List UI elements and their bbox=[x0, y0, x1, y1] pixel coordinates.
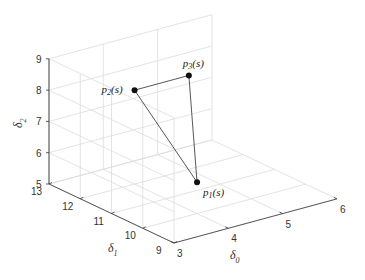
point-label-p1: p1(s) bbox=[202, 186, 224, 200]
z-tick-label: 5 bbox=[36, 179, 42, 190]
z-tick-label: 9 bbox=[36, 54, 42, 65]
y-tick-label: 9 bbox=[156, 245, 162, 256]
x-tick-label: 6 bbox=[340, 204, 346, 215]
z-axis-label: δ2 bbox=[11, 118, 28, 128]
point-label-p2: p2(s) bbox=[101, 83, 123, 97]
point-p2 bbox=[132, 87, 138, 93]
right-wall-grid-z-6 bbox=[49, 109, 212, 153]
edge-p1-p2 bbox=[135, 90, 198, 182]
x-tick-label: 4 bbox=[231, 233, 237, 244]
point-label-p3: p3(s) bbox=[182, 57, 204, 71]
x-axis-line bbox=[174, 199, 337, 243]
edge-p2-p3 bbox=[135, 75, 189, 90]
x-tick-5 bbox=[280, 212, 283, 214]
z-tick-label: 6 bbox=[36, 148, 42, 159]
x-tick-label: 5 bbox=[286, 219, 292, 230]
point-p1 bbox=[194, 179, 200, 185]
right-wall-grid-z-5 bbox=[49, 140, 212, 184]
z-tick-label: 7 bbox=[36, 116, 42, 127]
x-tick-6 bbox=[334, 197, 337, 199]
x-tick-label: 3 bbox=[177, 248, 183, 259]
axis-layer: 345691011121356789 bbox=[31, 54, 346, 259]
edge-p3-p1 bbox=[189, 75, 197, 182]
y-axis-label: δ1 bbox=[108, 241, 118, 258]
right-wall-grid-z-7 bbox=[49, 77, 212, 121]
right-wall-grid-z-9 bbox=[49, 15, 212, 59]
x-tick-4 bbox=[225, 227, 228, 229]
z-tick-label: 8 bbox=[36, 85, 42, 96]
y-tick-label: 11 bbox=[94, 216, 105, 227]
point-p3 bbox=[186, 72, 192, 78]
x-tick-3 bbox=[171, 242, 174, 244]
y-tick-label: 10 bbox=[125, 230, 137, 241]
x-axis-label: δ0 bbox=[230, 248, 240, 265]
plot-3d: 345691011121356789 δ0δ1δ2p1(s)p2(s)p3(s) bbox=[0, 0, 365, 280]
floor-grid-line-y-10 bbox=[143, 184, 306, 228]
y-tick-label: 12 bbox=[62, 201, 74, 212]
